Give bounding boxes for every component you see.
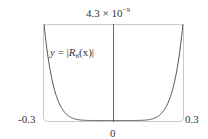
function-label: y = |R6(x)| [50,46,94,60]
x-tick-min: -0.3 [18,113,35,125]
y-max-label: 4.3 × 10−9 [86,6,130,19]
y-max-exponent: −9 [122,6,129,14]
function-label-r: R [69,46,76,58]
function-label-arg: (x)| [79,46,94,58]
function-label-eq: = | [55,46,69,58]
x-tick-max: 0.3 [185,113,199,125]
x-tick-zero: 0 [110,127,116,139]
y-max-mantissa: 4.3 × 10 [86,7,122,19]
